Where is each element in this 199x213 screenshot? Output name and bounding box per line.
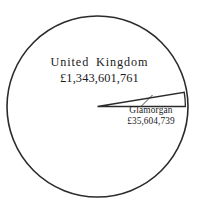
pie-chart-figure: United Kingdom £1,343,601,761 Glamorgan … [0,0,199,213]
slice-label-glamorgan-value: £35,604,739 [103,117,199,127]
slice-label-united-kingdom-value: £1,343,601,761 [0,72,199,85]
slice-label-glamorgan-name: Glamorgan [103,106,199,116]
pie-label-layer: United Kingdom £1,343,601,761 Glamorgan … [0,0,199,213]
slice-label-united-kingdom-name: United Kingdom [0,56,199,69]
